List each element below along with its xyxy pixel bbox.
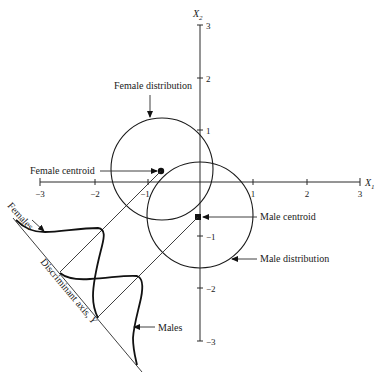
female-projection-line	[60, 171, 161, 272]
x-tick-3: 3	[358, 189, 363, 199]
males-label: Males	[158, 322, 183, 333]
discriminant-axis-label: Discriminant axis, Y	[38, 256, 100, 327]
female-projected-curve	[16, 220, 104, 318]
x-tick-2: 2	[305, 189, 310, 199]
y-tick-neg2: −2	[206, 284, 216, 294]
y-tick-neg1: −1	[206, 232, 216, 242]
discriminant-diagram: −3 −2 −1 1 2 3 X1 3 2 1 −1 −2 −3 X2 Fema…	[0, 0, 379, 379]
x-tick-neg3: −3	[35, 189, 45, 199]
y-tick-1: 1	[206, 126, 211, 136]
x-tick-neg2: −2	[90, 189, 100, 199]
y-tick-3: 3	[206, 21, 211, 31]
male-distribution-label: Male distribution	[260, 253, 329, 264]
male-projection-line	[97, 217, 198, 318]
female-centroid-label: Female centroid	[30, 165, 95, 176]
x2-axis-label: X2	[192, 8, 203, 22]
female-distribution-label: Female distribution	[114, 80, 192, 91]
y-tick-2: 2	[206, 74, 211, 84]
male-centroid-label: Male centroid	[260, 211, 316, 222]
x-tick-1: 1	[251, 189, 256, 199]
y-tick-neg3: −3	[206, 337, 216, 347]
x1-axis-label: X1	[364, 177, 375, 191]
